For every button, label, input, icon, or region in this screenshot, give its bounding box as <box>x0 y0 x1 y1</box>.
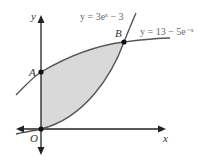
y-axis-label: y <box>30 10 36 22</box>
decay-curve-equation: y = 13 − 5e⁻ˣ <box>140 26 194 37</box>
point-a-label: A <box>28 66 36 78</box>
diagram: y x O A B y = 3eˣ − 3 y = 13 − 5e⁻ˣ <box>0 0 206 166</box>
point-b-label: B <box>115 27 122 39</box>
point-b <box>121 39 126 44</box>
point-a <box>38 69 43 74</box>
origin-label: O <box>30 132 38 144</box>
x-axis-label: x <box>162 132 168 144</box>
point-o <box>38 126 43 131</box>
exp-curve-equation: y = 3eˣ − 3 <box>80 11 124 22</box>
shaded-region <box>41 42 124 129</box>
y-axis-arrow-down <box>38 147 45 155</box>
y-axis-arrow-up <box>38 15 45 23</box>
x-axis-arrow-left <box>16 126 24 133</box>
